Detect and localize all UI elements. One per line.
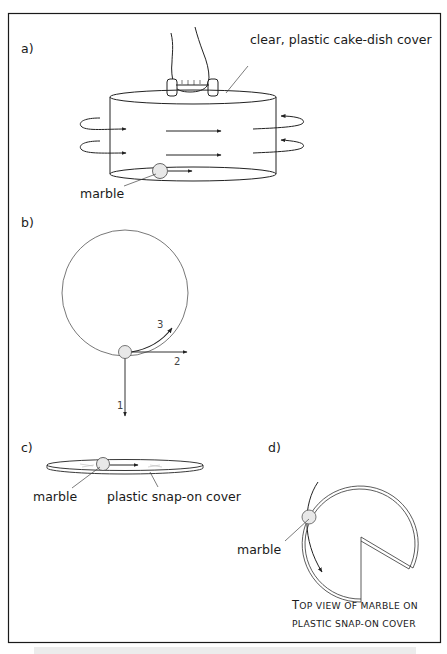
arrow-3 <box>131 328 172 352</box>
arrow-2-label: 2 <box>174 356 180 367</box>
marble-a-annotation: marble <box>80 186 124 201</box>
figure-canvas: a) clear, plastic cake-dish cover <box>0 0 447 654</box>
panel-d-caption-line1: TOP VIEW OF MARBLE ON <box>291 598 418 612</box>
marble-a <box>153 164 168 179</box>
marble-d-arrow <box>307 482 322 572</box>
panel-a: a) clear, plastic cake-dish cover <box>21 27 433 201</box>
bottom-strip <box>34 647 416 654</box>
panel-d-label: d) <box>268 440 281 455</box>
marble-c-annotation: marble <box>33 489 77 504</box>
figure-frame <box>9 14 441 643</box>
panel-b-label: b) <box>21 215 34 230</box>
panel-c-label: c) <box>21 440 33 455</box>
marble-d <box>302 510 316 524</box>
marble-d-annotation: marble <box>237 542 281 557</box>
panel-b: b) 1 2 3 <box>21 215 188 416</box>
panel-d: d) marble TOP VIEW OF MARBLE ON PLASTIC … <box>237 440 418 629</box>
snap-on-cover-top-view <box>302 486 418 602</box>
snap-on-cover-side <box>47 460 203 475</box>
caption-line1-rest: OP VIEW OF MARBLE ON <box>299 600 418 611</box>
motion-arrows-middle <box>166 131 221 155</box>
cover-c-callout-line <box>150 472 158 487</box>
panel-d-caption-line2: PLASTIC SNAP-ON COVER <box>292 618 416 629</box>
arrow-3-label: 3 <box>157 319 163 330</box>
rotation-arrows-left <box>80 118 126 153</box>
panel-c: c) marble plastic snap-on cover <box>21 440 242 504</box>
cover-c-annotation: plastic snap-on cover <box>107 489 242 504</box>
panel-a-label: a) <box>21 41 34 56</box>
marble-b <box>119 346 132 359</box>
cover-annotation: clear, plastic cake-dish cover <box>250 32 433 47</box>
path-circle <box>62 230 188 356</box>
diagram-svg: a) clear, plastic cake-dish cover <box>0 0 447 654</box>
arrow-1-label: 1 <box>117 400 123 411</box>
cover-callout-line <box>226 66 248 93</box>
cake-dish-cover <box>110 90 276 181</box>
rotation-arrows-right <box>253 116 304 153</box>
